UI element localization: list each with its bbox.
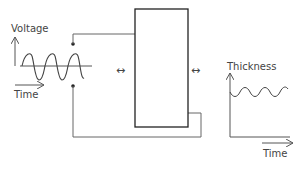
voltage-label: Voltage [11,23,49,34]
input-time-label: Time [13,89,38,100]
left-double-arrow-icon: ↔ [116,64,125,77]
device-box [135,9,188,127]
right-double-arrow-icon: ↔ [191,64,200,77]
thickness-label: Thickness [226,61,276,72]
top-wire [73,34,135,44]
diagram-canvas: Voltage Time ↔ ↔ Thickness Time [0,0,303,170]
thickness-wave [230,87,288,96]
input-graph: Voltage Time [11,23,92,100]
input-sine-wave [22,54,84,80]
output-graph: Thickness Time [226,61,293,159]
output-time-label: Time [262,148,287,159]
